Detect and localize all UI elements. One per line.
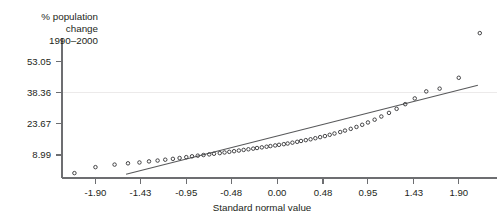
data-point <box>126 162 130 166</box>
data-point <box>338 130 342 134</box>
data-point <box>212 152 216 156</box>
data-point <box>164 158 168 162</box>
y-axis-ticks <box>56 61 62 155</box>
data-point <box>299 139 303 143</box>
data-point <box>309 138 313 142</box>
data-point <box>413 97 417 101</box>
data-point <box>223 151 227 155</box>
data-point <box>387 111 391 115</box>
data-point <box>355 125 359 129</box>
data-point <box>185 155 189 159</box>
data-point <box>269 144 273 148</box>
qq-plot-svg: 8.9923.6738.3653.05 -1.90-1.43-0.95-0.48… <box>0 0 504 221</box>
data-point <box>255 146 259 150</box>
y-tick-label-3: 53.05 <box>27 56 51 67</box>
data-point <box>343 129 347 133</box>
x-tick-label-3: -0.48 <box>220 187 242 198</box>
data-point <box>395 107 399 111</box>
y-axis-title-line-2: change <box>66 23 99 34</box>
data-point <box>282 142 286 146</box>
data-point <box>265 145 269 149</box>
y-axis-title: % population change 1990–2000 <box>41 11 98 46</box>
x-tick-label-6: 0.95 <box>359 187 378 198</box>
x-tick-label-1: -1.43 <box>129 187 151 198</box>
y-tick-label-0: 8.99 <box>32 149 51 160</box>
x-tick-label-0: -1.90 <box>85 187 107 198</box>
data-point <box>333 132 337 136</box>
data-point <box>373 118 377 122</box>
x-tick-label-2: -0.95 <box>175 187 197 198</box>
data-point <box>260 146 264 150</box>
data-point <box>286 142 290 146</box>
y-axis-title-line-3: 1990–2000 <box>49 35 99 46</box>
data-point <box>277 143 281 147</box>
data-point <box>295 140 299 144</box>
data-point <box>438 87 442 91</box>
x-tick-label-8: 1.90 <box>449 187 468 198</box>
qq-plot-figure: 8.9923.6738.3653.05 -1.90-1.43-0.95-0.48… <box>0 0 504 221</box>
data-point <box>349 127 353 131</box>
y-axis-title-line-1: % population <box>41 11 98 22</box>
data-point <box>251 147 255 151</box>
data-point <box>323 134 327 138</box>
data-point <box>147 160 151 164</box>
data-point <box>304 138 308 142</box>
data-point <box>242 148 246 152</box>
x-tick-label-5: 0.48 <box>314 187 333 198</box>
data-point <box>366 121 370 125</box>
data-point <box>478 31 482 35</box>
y-tick-label-1: 23.67 <box>27 118 51 129</box>
data-point <box>314 136 318 140</box>
y-tick-label-2: 38.36 <box>27 87 51 98</box>
data-point <box>318 135 322 139</box>
data-point <box>228 150 232 154</box>
data-point-group <box>73 31 482 175</box>
data-point <box>138 161 142 165</box>
data-point <box>171 157 175 161</box>
data-point <box>232 149 236 153</box>
data-point <box>291 141 295 145</box>
data-point <box>94 165 98 169</box>
normal-reference-line <box>126 85 478 174</box>
x-tick-label-4: 0.00 <box>268 187 287 198</box>
y-axis: 8.9923.6738.3653.05 <box>27 38 62 178</box>
data-point <box>156 159 160 163</box>
data-point <box>273 144 277 148</box>
data-point <box>113 163 117 167</box>
data-point <box>360 123 364 127</box>
data-point <box>218 151 222 155</box>
y-axis-tick-labels: 8.9923.6738.3653.05 <box>27 56 51 161</box>
x-axis: -1.90-1.43-0.95-0.480.000.480.951.431.90 <box>62 178 497 198</box>
data-point <box>380 115 384 119</box>
data-point <box>457 76 461 80</box>
reference-line-group <box>126 85 478 174</box>
data-point <box>237 149 241 153</box>
x-axis-title: Standard normal value <box>213 202 312 213</box>
data-point <box>73 171 77 175</box>
x-axis-tick-labels: -1.90-1.43-0.95-0.480.000.480.951.431.90 <box>85 187 469 198</box>
data-point <box>178 156 182 160</box>
x-axis-ticks <box>95 178 458 184</box>
data-point <box>328 133 332 137</box>
x-tick-label-7: 1.43 <box>404 187 423 198</box>
data-point <box>247 148 251 152</box>
